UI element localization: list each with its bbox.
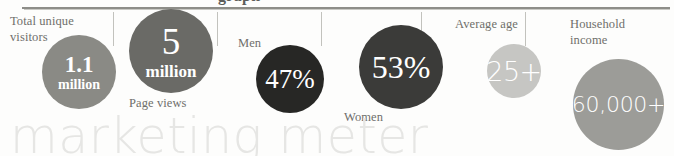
- metric-value-age: 25+: [486, 58, 541, 85]
- metric-value-visitors: 1.1: [65, 53, 94, 76]
- metric-circle-visitors: 1.1 million: [42, 35, 116, 109]
- metric-label-age: Average age: [455, 17, 545, 33]
- metric-value-unit-pageviews: million: [145, 63, 196, 80]
- marketing-meter-infographic: graph Total unique visitors 1.1 million …: [0, 0, 674, 156]
- metric-circle-income: 60,000+: [573, 59, 664, 150]
- column-divider-3: [321, 12, 322, 46]
- column-divider-2: [217, 12, 218, 46]
- metric-value-women: 53%: [372, 51, 431, 83]
- metric-value-men: 47%: [265, 66, 315, 93]
- brand-watermark: marketing meter: [10, 112, 428, 156]
- metric-value-income: 60,000+: [572, 94, 665, 116]
- metric-circle-age: 25+: [487, 44, 541, 98]
- top-horizontal-rule-hairline: [24, 9, 670, 10]
- metric-circle-women: 53%: [359, 25, 443, 109]
- metric-value-unit-visitors: million: [58, 78, 100, 92]
- metric-label-income: Household income: [570, 17, 662, 48]
- metric-circle-men: 47%: [256, 45, 324, 113]
- metric-value-pageviews: 5: [162, 23, 181, 60]
- metric-circle-pageviews: 5 million: [129, 9, 213, 93]
- column-divider-1: [113, 12, 114, 46]
- cropped-heading-fragment: graph: [218, 0, 260, 5]
